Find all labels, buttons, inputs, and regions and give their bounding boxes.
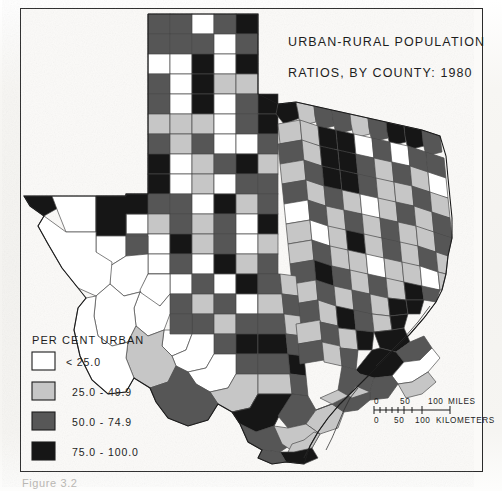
scale-bar: 0 50 100 MILES 0 50 100 KILOMETERS bbox=[374, 397, 495, 425]
scale-miles-tick-0: 0 bbox=[374, 397, 379, 406]
map-title: URBAN-RURAL POPULATION RATIOS, BY COUNTY… bbox=[288, 35, 485, 80]
legend-swatch-lt25 bbox=[32, 352, 55, 370]
scale-miles-tick-50: 50 bbox=[400, 397, 410, 406]
map-canvas: URBAN-RURAL POPULATION RATIOS, BY COUNTY… bbox=[0, 0, 502, 491]
legend-label-1: 25.0 - 49.9 bbox=[72, 386, 132, 398]
legend-label-2: 50.0 - 74.9 bbox=[72, 416, 132, 428]
legend-item-2[interactable]: 50.0 - 74.9 bbox=[32, 412, 132, 430]
figure-caption: Figure 3.2 bbox=[22, 477, 172, 490]
legend-heading: PER CENT URBAN bbox=[32, 334, 144, 346]
legend-swatch-75-100 bbox=[32, 442, 55, 460]
legend-swatch-25-49 bbox=[32, 382, 55, 400]
title-line-2: RATIOS, BY COUNTY: 1980 bbox=[288, 66, 473, 80]
scale-miles-tick-100: 100 bbox=[428, 397, 443, 406]
texas-county-choropleth-svg: URBAN-RURAL POPULATION RATIOS, BY COUNTY… bbox=[0, 0, 502, 491]
scale-km-tick-100: 100 bbox=[415, 416, 430, 425]
legend-label-0: < 25.0 bbox=[66, 356, 101, 368]
scale-km-tick-0: 0 bbox=[374, 416, 379, 425]
legend-item-3[interactable]: 75.0 - 100.0 bbox=[32, 442, 139, 460]
figure-urban-rural-map: URBAN-RURAL POPULATION RATIOS, BY COUNTY… bbox=[0, 0, 502, 491]
scale-km-tick-50: 50 bbox=[394, 416, 404, 425]
title-line-1: URBAN-RURAL POPULATION bbox=[288, 35, 485, 49]
legend-swatch-50-74 bbox=[32, 412, 55, 430]
scale-km-unit: KILOMETERS bbox=[436, 416, 495, 425]
scale-miles-unit: MILES bbox=[448, 397, 476, 406]
legend-label-3: 75.0 - 100.0 bbox=[72, 446, 139, 458]
